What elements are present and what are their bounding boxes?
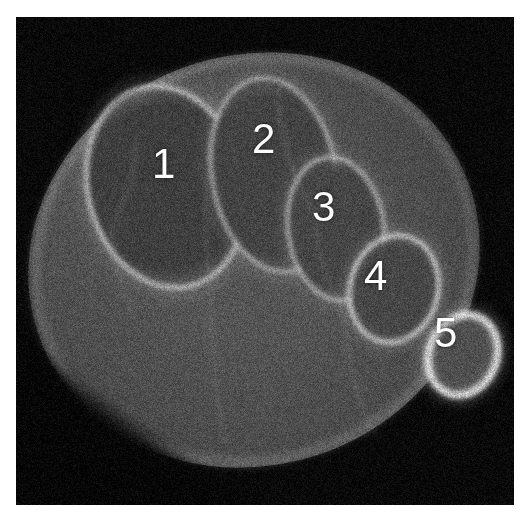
ct-scan-canvas: [16, 17, 514, 505]
ct-image-viewport: 1 2 3 4 5: [0, 0, 524, 517]
ct-scan-frame: [16, 17, 514, 505]
